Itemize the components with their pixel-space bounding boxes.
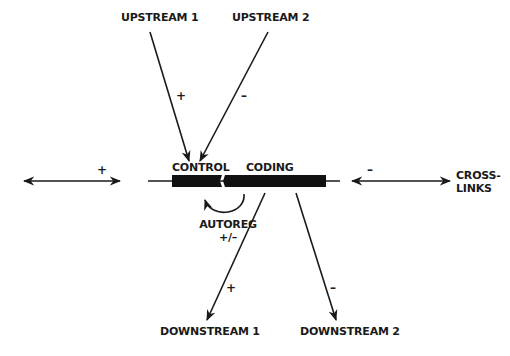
right-link-sign: – <box>367 164 373 176</box>
upstream-1-sign: + <box>176 90 186 102</box>
crosslinks-label-line1: CROSS- <box>456 170 501 183</box>
upstream-2-label: UPSTREAM 2 <box>232 12 309 25</box>
autoreg-curved-arrow <box>205 194 244 212</box>
autoreg-label: AUTOREG <box>198 219 258 232</box>
downstream-2-arrow <box>296 193 336 320</box>
downstream-1-sign: + <box>226 282 236 294</box>
left-link-sign: + <box>97 164 107 176</box>
gene-regulation-diagram <box>0 0 510 356</box>
autoreg-sign: +/– <box>198 232 258 245</box>
upstream-2-arrow <box>200 32 268 161</box>
control-region-block <box>172 175 222 187</box>
downstream-1-label: DOWNSTREAM 1 <box>160 326 260 339</box>
crosslinks-label-line2: LINKS <box>456 183 492 196</box>
downstream-1-arrow <box>207 193 265 320</box>
downstream-2-sign: – <box>330 282 336 294</box>
coding-region-label: CODING <box>246 162 294 175</box>
upstream-1-label: UPSTREAM 1 <box>121 12 198 25</box>
coding-region-block <box>223 175 326 187</box>
upstream-2-sign: – <box>241 90 247 102</box>
downstream-2-label: DOWNSTREAM 2 <box>300 326 400 339</box>
control-region-label: CONTROL <box>172 162 230 175</box>
